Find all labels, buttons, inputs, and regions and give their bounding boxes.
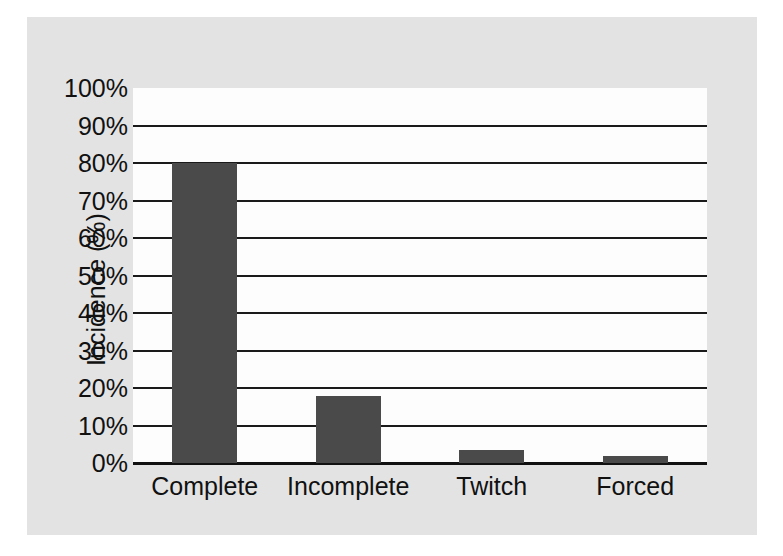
x-tick-label: Forced [596, 472, 674, 501]
x-axis-category-labels: CompleteIncompleteTwitchForced [133, 472, 707, 512]
gridline-50 [133, 275, 707, 277]
plot-area [133, 88, 707, 463]
gridline-70 [133, 200, 707, 202]
gridline-40 [133, 312, 707, 314]
gridline-80 [133, 162, 707, 164]
gridline-30 [133, 350, 707, 352]
gridline-10 [133, 425, 707, 427]
gridline-60 [133, 237, 707, 239]
y-axis-title-wrapper: Incidence (%) [55, 88, 85, 463]
figure-root: 100%90%80%70%60%50%40%30%20%10%0% Incide… [0, 0, 783, 556]
x-tick-label: Incomplete [287, 472, 409, 501]
y-axis-title: Incidence (%) [82, 170, 111, 410]
x-tick-label: Complete [151, 472, 258, 501]
axis-baseline [133, 462, 707, 465]
gridline-20 [133, 387, 707, 389]
x-tick-label: Twitch [456, 472, 527, 501]
gridline-90 [133, 125, 707, 127]
